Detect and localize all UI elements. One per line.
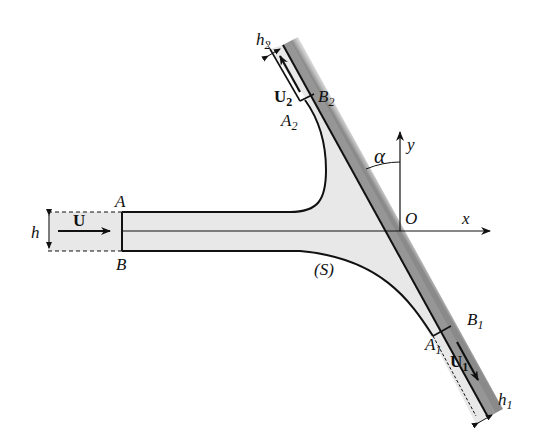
label-h: h	[31, 223, 40, 242]
label-B1: B1	[467, 310, 483, 332]
label-B2: B2	[318, 87, 334, 109]
label-h2: h2	[256, 30, 271, 52]
label-U2: U2	[274, 87, 292, 109]
fluid-region	[48, 45, 488, 424]
label-y-axis: y	[405, 135, 415, 154]
label-x-axis: x	[461, 209, 470, 228]
label-origin: O	[405, 209, 417, 228]
label-U: U	[73, 211, 85, 230]
label-A2: A2	[280, 111, 297, 133]
label-free-surface: (S)	[314, 260, 334, 279]
label-B: B	[116, 255, 127, 274]
jet-diagram: A B U h h2 U2 B2 A2 B1 A1 U1 h1 O x y α …	[0, 0, 538, 439]
label-alpha: α	[374, 144, 386, 168]
label-A: A	[114, 192, 126, 211]
label-h1: h1	[498, 390, 513, 412]
